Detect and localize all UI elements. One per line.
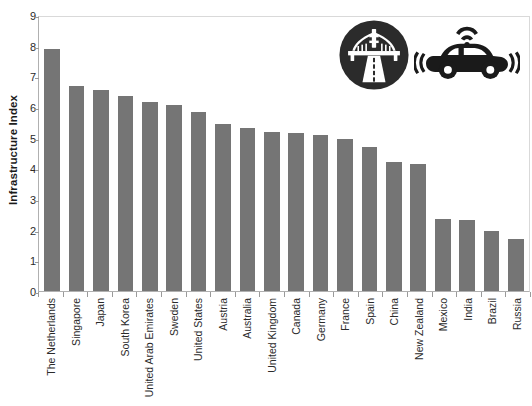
x-axis-tick-mark — [333, 292, 334, 297]
x-axis-category-label: France — [340, 298, 351, 331]
x-axis-label-slot: India — [456, 298, 481, 404]
x-axis-tick-mark — [432, 292, 433, 297]
y-axis-title-text: Infrastructure Index — [7, 95, 19, 205]
bar — [386, 162, 402, 291]
x-axis-category-label: New Zealand — [414, 298, 425, 360]
y-axis-tick-mark — [35, 232, 39, 233]
bar-slot — [308, 17, 332, 291]
bar — [44, 49, 60, 291]
x-axis-tick-mark — [186, 292, 187, 297]
bar — [215, 124, 231, 291]
infrastructure-index-bar-chart: Infrastructure Index 9876543210 The Neth… — [0, 0, 532, 406]
bar — [191, 112, 207, 291]
y-axis-tick-label: 3 — [30, 195, 36, 206]
x-axis-label-slot: New Zealand — [407, 298, 432, 404]
bar — [69, 86, 85, 291]
x-axis-tick-mark — [530, 292, 531, 297]
bar — [93, 90, 109, 291]
x-axis-category-label: South Korea — [120, 298, 131, 356]
x-axis-label-slot: Germany — [309, 298, 334, 404]
x-axis-tick-mark — [309, 292, 310, 297]
bar-slot — [284, 17, 308, 291]
x-axis-label-slot: United Arab Emirates — [137, 298, 162, 404]
y-axis-tick-label: 1 — [30, 256, 36, 267]
y-axis-tick-label: 9 — [30, 11, 36, 22]
x-axis-tick-mark — [112, 292, 113, 297]
bar — [508, 239, 524, 291]
bar-slot — [138, 17, 162, 291]
x-axis-category-label: Sweden — [169, 298, 180, 336]
x-axis-label-slot: South Korea — [113, 298, 138, 404]
x-axis-label-slot: Sweden — [162, 298, 187, 404]
x-axis-tick-marks — [38, 292, 530, 297]
bar-slot — [64, 17, 88, 291]
x-axis-label-slot: United States — [186, 298, 211, 404]
y-axis-tick-label: 2 — [30, 225, 36, 236]
y-axis-tick-label: 7 — [30, 72, 36, 83]
x-axis-label-slot: China — [382, 298, 407, 404]
x-axis-category-label: China — [389, 298, 400, 325]
x-axis-label-slot: United Kingdom — [260, 298, 285, 404]
bar — [264, 132, 280, 291]
x-axis-tick-mark — [235, 292, 236, 297]
bar — [435, 219, 451, 291]
y-axis-tick-mark — [35, 201, 39, 202]
x-axis-category-label: India — [463, 298, 474, 321]
bar — [313, 135, 329, 291]
bar-slot — [186, 17, 210, 291]
bar — [410, 164, 426, 291]
bar-slot — [89, 17, 113, 291]
y-axis-tick-mark — [35, 48, 39, 49]
x-axis-category-label: Japan — [95, 298, 106, 327]
bar-slot — [162, 17, 186, 291]
bar — [484, 231, 500, 291]
x-axis-label-slot: Russia — [505, 298, 530, 404]
bar — [142, 102, 158, 291]
x-axis-label-slot: Canada — [284, 298, 309, 404]
bar-slot — [40, 17, 64, 291]
x-axis-category-label: Singapore — [71, 298, 82, 346]
y-axis-tick-mark — [35, 140, 39, 141]
x-axis-tick-mark — [481, 292, 482, 297]
bridge-highway-icon — [338, 19, 410, 95]
x-axis-label-slot: Mexico — [431, 298, 456, 404]
x-axis-label-slot: France — [333, 298, 358, 404]
y-axis-tick-mark — [35, 109, 39, 110]
x-axis-category-labels: The NetherlandsSingaporeJapanSouth Korea… — [38, 298, 530, 404]
x-axis-label-slot: Austria — [211, 298, 236, 404]
y-axis-tick-mark — [35, 170, 39, 171]
bar — [362, 147, 378, 291]
x-axis-tick-mark — [210, 292, 211, 297]
x-axis-tick-mark — [382, 292, 383, 297]
x-axis-label-slot: Singapore — [64, 298, 89, 404]
x-axis-tick-mark — [38, 292, 39, 297]
x-axis-tick-mark — [407, 292, 408, 297]
x-axis-label-slot: Australia — [235, 298, 260, 404]
x-axis-tick-mark — [259, 292, 260, 297]
y-axis-tick-mark — [35, 262, 39, 263]
y-axis-tick-label: 5 — [30, 133, 36, 144]
x-axis-category-label: United States — [193, 298, 204, 361]
bar-slot — [113, 17, 137, 291]
x-axis-label-slot: Japan — [88, 298, 113, 404]
y-axis-tick-mark — [35, 17, 39, 18]
x-axis-category-label: United Arab Emirates — [144, 298, 155, 397]
x-axis-category-label: Australia — [242, 298, 253, 339]
bar-slot — [235, 17, 259, 291]
x-axis-tick-mark — [505, 292, 506, 297]
x-axis-category-label: Russia — [512, 298, 523, 330]
x-axis-category-label: United Kingdom — [267, 298, 278, 373]
y-axis-tick-label: 0 — [30, 287, 36, 298]
x-axis-category-label: Germany — [316, 298, 327, 341]
x-axis-tick-mark — [63, 292, 64, 297]
x-axis-tick-mark — [358, 292, 359, 297]
x-axis-category-label: Spain — [365, 298, 376, 325]
x-axis-label-slot: Spain — [358, 298, 383, 404]
x-axis-tick-mark — [456, 292, 457, 297]
bar — [166, 105, 182, 291]
y-axis-tick-mark — [35, 78, 39, 79]
x-axis-tick-mark — [284, 292, 285, 297]
x-axis-category-label: The Netherlands — [46, 298, 57, 376]
bar — [459, 220, 475, 291]
x-axis-tick-mark — [136, 292, 137, 297]
